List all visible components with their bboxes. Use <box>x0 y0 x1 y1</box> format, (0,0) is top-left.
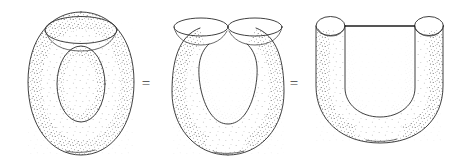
figure-pinched-torus <box>170 14 286 158</box>
torus-stipple-shading <box>26 10 138 158</box>
bent-cylinder-stipple-shading <box>314 14 445 146</box>
figure-torus <box>26 10 138 158</box>
topology-figure-canvas: .ink { fill:none; stroke:#2b2b2b; stroke… <box>0 0 457 166</box>
equals-sign-2: = <box>290 75 298 91</box>
figure-bent-cylinder <box>314 14 445 146</box>
equals-sign-1: = <box>142 75 150 91</box>
